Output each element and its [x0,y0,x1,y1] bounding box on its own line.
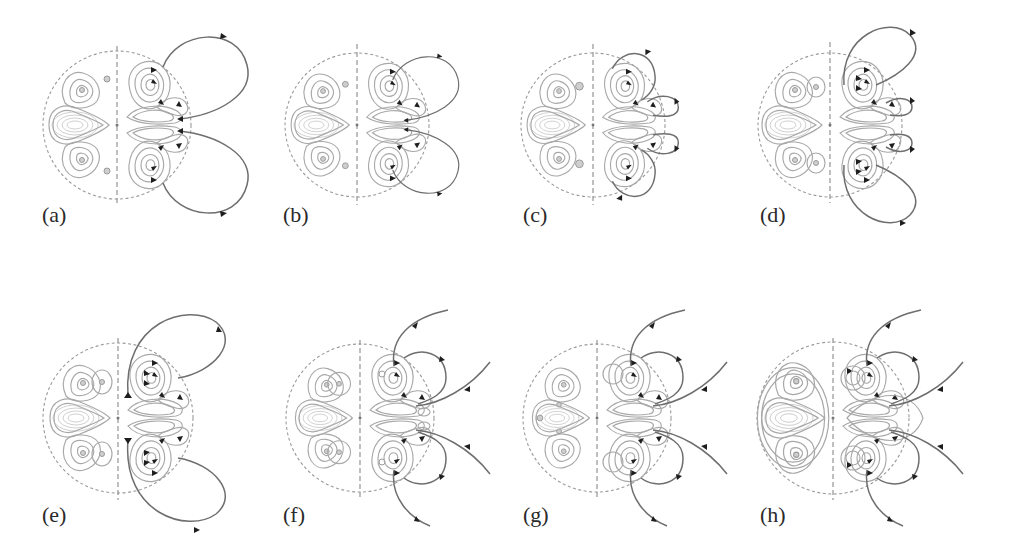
panel-e: (e) [42,315,225,533]
panel-label: (c) [523,202,547,227]
panel-label: (a) [42,202,66,227]
field-contours [291,54,459,197]
field-contours [532,310,727,526]
panel-d: (d) [758,27,916,227]
panel-label: (f) [283,502,305,527]
panel-label: (d) [760,202,786,227]
field-contours [757,310,963,526]
panel-label: (b) [283,202,309,227]
panel-label: (e) [42,502,66,527]
panel-f: (f) [283,310,490,527]
panel-c: (c) [521,44,679,227]
field-contours [762,27,916,226]
panel-g: (g) [523,310,727,527]
panel-label: (h) [760,502,786,527]
field-pattern-figure: (a) (b) [0,0,1014,552]
panel-a: (a) [42,33,248,227]
panel-h: (h) [757,310,963,527]
field-contours [49,33,248,217]
panel-label: (g) [523,502,549,527]
field-contours [295,310,490,526]
panel-b: (b) [283,44,459,227]
field-contours [527,49,679,200]
field-contours [50,315,225,533]
